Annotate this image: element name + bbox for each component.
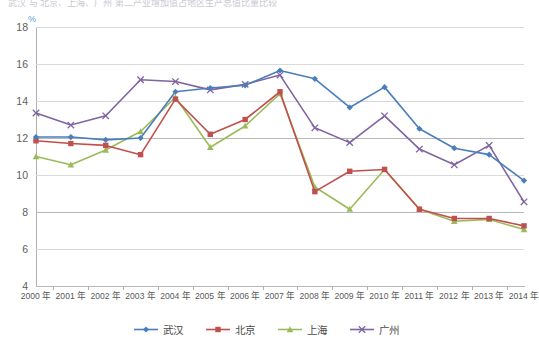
x-axis-tickmark: [228, 286, 229, 290]
data-point: [382, 167, 387, 172]
x-axis-tickmark: [53, 286, 54, 290]
x-axis-tickmark: [263, 286, 264, 290]
data-point: [103, 143, 108, 148]
x-axis-tickmark: [88, 286, 89, 290]
x-axis-tickmark: [402, 286, 403, 290]
x-axis-tick-label: 2014 年: [509, 289, 539, 301]
data-point: [486, 216, 491, 221]
gridline: [36, 286, 524, 287]
x-axis-tickmark: [507, 286, 508, 290]
y-axis-tick-label: 6: [22, 243, 28, 255]
x-axis-tickmark: [193, 286, 194, 290]
x-axis-tick-label: 2013 年: [474, 289, 505, 301]
x-axis-tickmark: [437, 286, 438, 290]
y-axis-tick-label: 10: [16, 169, 28, 181]
x-axis-tick-label: 2010 年: [369, 289, 400, 301]
x-axis-tickmark: [472, 286, 473, 290]
legend-marker-icon: [133, 324, 159, 335]
x-axis-tick-label: 2003 年: [125, 289, 156, 301]
data-point: [347, 139, 353, 145]
data-point: [173, 96, 178, 101]
data-point: [381, 113, 387, 119]
data-point: [521, 223, 526, 228]
legend-label: 上海: [307, 322, 327, 337]
chart-title-cutoff: 武汉 与 北京、上海、广州 第二产业增加值占地区生产总值比重比较: [8, 0, 308, 7]
data-point: [451, 162, 457, 168]
legend-item-广州[interactable]: 广州: [349, 322, 399, 337]
y-axis-tick-label: 16: [16, 58, 28, 70]
plot-area: [36, 27, 524, 286]
x-axis-tick-label: 2008 年: [300, 289, 331, 301]
legend-label: 北京: [235, 322, 255, 337]
x-axis-tickmark: [158, 286, 159, 290]
data-point: [33, 153, 40, 159]
x-axis-tick-label: 2004 年: [160, 289, 191, 301]
x-axis-tickmark: [332, 286, 333, 290]
x-axis-tick-label: 2002 年: [90, 289, 121, 301]
y-axis-unit-label: %: [28, 14, 36, 24]
data-point: [277, 89, 282, 94]
data-point: [451, 145, 457, 151]
legend-label: 武汉: [163, 322, 183, 337]
x-axis-tick-label: 2009 年: [334, 289, 365, 301]
data-point: [103, 137, 109, 143]
series-北京: [33, 89, 526, 229]
x-axis-tickmark: [367, 286, 368, 290]
data-point: [68, 134, 74, 140]
data-point: [242, 117, 247, 122]
x-axis-tick-label: 2011 年: [404, 289, 434, 301]
data-point: [312, 189, 317, 194]
series-line: [36, 94, 524, 230]
legend-marker-icon: [277, 324, 303, 335]
legend-label: 广州: [379, 322, 399, 337]
x-axis-tickmark: [297, 286, 298, 290]
legend-marker-icon: [205, 324, 231, 335]
x-axis-tick-label: 2007 年: [265, 289, 296, 301]
x-axis-tick-label: 2005 年: [195, 289, 226, 301]
data-point: [452, 216, 457, 221]
x-axis-tick-label: 2000 年: [21, 289, 52, 301]
series-layer: [36, 27, 524, 286]
data-point: [208, 132, 213, 137]
series-上海: [33, 90, 528, 232]
legend-item-北京[interactable]: 北京: [205, 322, 255, 337]
data-point: [68, 141, 73, 146]
data-point: [486, 142, 492, 148]
y-axis-tick-labels: 1816141210864: [0, 27, 32, 287]
legend-item-武汉[interactable]: 武汉: [133, 322, 183, 337]
x-axis-tick-label: 2012 年: [439, 289, 470, 301]
legend-item-上海[interactable]: 上海: [277, 322, 327, 337]
y-axis-tick-label: 14: [16, 95, 28, 107]
y-axis-tick-label: 12: [16, 132, 28, 144]
y-axis-tick-label: 18: [16, 21, 28, 33]
x-axis-tick-label: 2001 年: [56, 289, 87, 301]
y-axis-tick-label: 8: [22, 206, 28, 218]
chart-legend: 武汉北京上海广州: [0, 322, 532, 337]
data-point: [138, 152, 143, 157]
x-axis-tick-label: 2006 年: [230, 289, 261, 301]
x-axis-tickmark: [123, 286, 124, 290]
data-point: [417, 207, 422, 212]
data-point: [521, 199, 527, 205]
x-axis-tick-labels: 2000 年2001 年2002 年2003 年2004 年2005 年2006…: [36, 289, 524, 305]
data-point: [312, 125, 318, 131]
legend-marker-icon: [349, 324, 375, 335]
data-point: [416, 146, 422, 152]
data-point: [347, 169, 352, 174]
